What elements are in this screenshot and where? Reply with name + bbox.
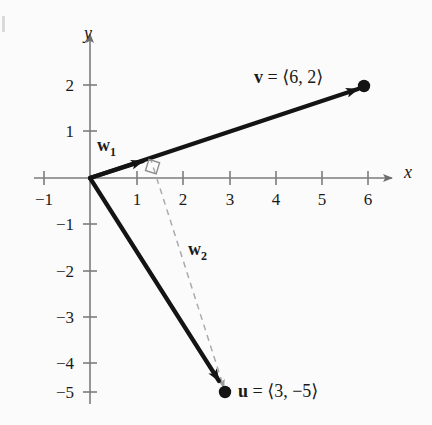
y-axis-label: y: [84, 24, 92, 42]
y-tick-label--2: −2: [48, 263, 74, 280]
right-angle-marker: [146, 159, 160, 174]
vector-v-components: = ⟨6, 2⟩: [263, 67, 323, 87]
vector-w1-label: w1: [97, 136, 116, 158]
y-tick-label-1: 1: [54, 123, 74, 140]
vector-w1-subscript: 1: [110, 145, 116, 159]
x-axis-label: x: [404, 163, 412, 181]
y-axis: [83, 34, 97, 404]
y-tick-label--1: −1: [48, 216, 74, 233]
vector-w1-symbol: w: [97, 135, 110, 155]
y-tick-label--5: −5: [48, 384, 74, 401]
x-tick-label--1: −1: [35, 191, 53, 208]
vector-u-endpoint-dot: [219, 386, 231, 398]
x-tick-label-3: 3: [226, 191, 235, 208]
vector-w1: [90, 161, 143, 178]
x-axis: [34, 171, 392, 185]
x-tick-label-6: 6: [364, 191, 373, 208]
vector-v-symbol: v: [254, 67, 263, 87]
vector-w2-label: w2: [188, 240, 207, 262]
y-tick-label--4: −4: [48, 355, 74, 372]
vector-v-endpoint-dot: [358, 80, 370, 92]
vector-projection-figure: x y −1 1 2 3 4 5 6 2 1 −1 −2 −3 −4 −5 v …: [0, 0, 432, 425]
vector-u-label: u = ⟨3, −5⟩: [238, 382, 318, 400]
vector-w2-subscript: 2: [201, 249, 207, 263]
x-tick-label-4: 4: [272, 191, 281, 208]
vector-u-components: = ⟨3, −5⟩: [248, 381, 318, 401]
x-tick-label-5: 5: [318, 191, 327, 208]
vector-w2-symbol: w: [188, 239, 201, 259]
vector-u: [90, 178, 231, 398]
x-tick-label-2: 2: [179, 191, 188, 208]
x-tick-label-1: 1: [133, 191, 142, 208]
vector-u-symbol: u: [238, 381, 248, 401]
y-tick-label--3: −3: [48, 309, 74, 326]
vector-v-label: v = ⟨6, 2⟩: [254, 68, 323, 86]
y-tick-label-2: 2: [54, 77, 74, 94]
